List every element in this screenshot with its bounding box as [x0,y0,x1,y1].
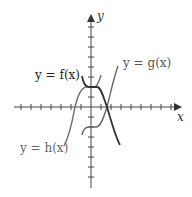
x-axis: x [14,104,184,124]
y-axis: y [88,9,104,188]
label-h: y = h(x) [19,141,68,155]
function-graph: x y y = f(x) y = g(x) y = h(x) [0,0,192,197]
label-g: y = g(x) [122,56,171,70]
y-axis-label: y [96,9,104,23]
x-axis-label: x [177,110,184,124]
curve-f [82,76,120,145]
label-f: y = f(x) [34,68,80,82]
curve-h [64,75,101,146]
